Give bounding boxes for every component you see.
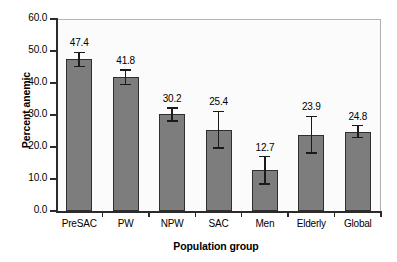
error-bar-cap-lower xyxy=(167,120,178,122)
y-axis-tick-label: 20.0 xyxy=(1,140,47,151)
bar-value-label: 25.4 xyxy=(189,96,249,107)
error-bar-cap-upper xyxy=(352,125,363,127)
bar xyxy=(113,77,139,211)
error-bar-cap-upper xyxy=(259,156,270,158)
y-axis-tick-label: 40.0 xyxy=(1,76,47,87)
y-axis-tick xyxy=(50,114,56,116)
error-bar-cap-lower xyxy=(213,147,224,149)
y-axis-tick xyxy=(50,18,56,20)
error-bar-cap-lower xyxy=(74,66,85,68)
error-bar-cap-lower xyxy=(259,183,270,185)
y-axis-tick-label: 30.0 xyxy=(1,108,47,119)
bar xyxy=(159,114,185,211)
y-axis-tick-label: 60.0 xyxy=(1,12,47,23)
error-bar-cap-upper xyxy=(213,111,224,113)
x-axis-title: Population group xyxy=(56,240,376,252)
error-bar-cap-upper xyxy=(120,69,131,71)
bar xyxy=(345,132,371,211)
error-bar-line xyxy=(264,157,266,185)
error-bar-cap-upper xyxy=(167,107,178,109)
y-axis-tick-label: 10.0 xyxy=(1,172,47,183)
y-axis-tick-label: 50.0 xyxy=(1,44,47,55)
x-axis-tick xyxy=(148,212,150,217)
y-axis-tick-label: 0.0 xyxy=(1,204,47,215)
error-bar-cap-lower xyxy=(352,137,363,139)
error-bar-line xyxy=(171,108,173,121)
error-bar-line xyxy=(218,111,220,147)
x-axis-tick xyxy=(380,212,382,217)
error-bar-line xyxy=(78,52,80,66)
bar-chart-figure: Percent anemic Population group 0.010.02… xyxy=(0,0,397,262)
bar-value-label: 12.7 xyxy=(235,142,295,153)
x-axis-tick xyxy=(241,212,243,217)
error-bar-cap-lower xyxy=(306,152,317,154)
error-bar-cap-lower xyxy=(120,84,131,86)
error-bar-line xyxy=(311,116,313,152)
error-bar-cap-upper xyxy=(74,52,85,54)
bar-value-label: 41.8 xyxy=(96,55,156,66)
bar xyxy=(66,59,92,211)
y-axis-tick xyxy=(50,82,56,84)
y-axis-tick xyxy=(50,210,56,212)
x-axis-tick xyxy=(195,212,197,217)
x-axis-tick-label: Global xyxy=(323,218,393,229)
error-bar-line xyxy=(125,70,127,84)
error-bar-line xyxy=(357,126,359,138)
x-axis-tick xyxy=(102,212,104,217)
y-axis-tick xyxy=(50,178,56,180)
x-axis-tick xyxy=(287,212,289,217)
error-bar-cap-upper xyxy=(306,116,317,118)
bar-value-label: 47.4 xyxy=(49,37,109,48)
y-axis-tick xyxy=(50,50,56,52)
bar-value-label: 24.8 xyxy=(328,111,388,122)
x-axis-tick xyxy=(334,212,336,217)
y-axis-tick xyxy=(50,146,56,148)
